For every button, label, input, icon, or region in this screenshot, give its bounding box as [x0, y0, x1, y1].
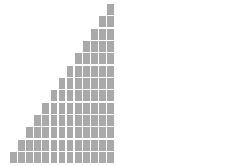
waffle-cell-filled: [91, 127, 98, 138]
waffle-cell-empty: [10, 16, 17, 27]
waffle-cell-empty: [26, 4, 33, 15]
waffle-cell-empty: [67, 16, 74, 27]
waffle-cell-empty: [34, 103, 41, 114]
waffle-cell-filled: [91, 152, 98, 163]
waffle-cell-filled: [99, 66, 106, 77]
waffle-cell-filled: [75, 140, 82, 151]
waffle-cell-filled: [83, 66, 90, 77]
waffle-cell-filled: [51, 152, 58, 163]
waffle-cell-filled: [75, 152, 82, 163]
waffle-cell-filled: [34, 152, 41, 163]
waffle-cell-filled: [91, 41, 98, 52]
waffle-cell-empty: [75, 29, 82, 40]
waffle-cell-empty: [18, 29, 25, 40]
waffle-cell-empty: [42, 4, 49, 15]
waffle-cell-empty: [26, 66, 33, 77]
waffle-cell-filled: [59, 152, 66, 163]
waffle-cell-empty: [83, 29, 90, 40]
waffle-cell-filled: [18, 152, 25, 163]
waffle-cell-filled: [83, 152, 90, 163]
waffle-cell-filled: [75, 66, 82, 77]
waffle-cell-filled: [75, 115, 82, 126]
waffle-cell-empty: [51, 41, 58, 52]
waffle-cell-empty: [18, 103, 25, 114]
waffle-cell-empty: [26, 16, 33, 27]
waffle-cell-empty: [34, 66, 41, 77]
waffle-cell-filled: [67, 115, 74, 126]
waffle-cell-empty: [83, 16, 90, 27]
waffle-cell-filled: [67, 127, 74, 138]
waffle-cell-filled: [107, 115, 114, 126]
waffle-cell-filled: [83, 90, 90, 101]
waffle-cell-filled: [99, 127, 106, 138]
waffle-cell-filled: [83, 127, 90, 138]
waffle-cell-filled: [59, 78, 66, 89]
waffle-cell-filled: [91, 66, 98, 77]
waffle-cell-filled: [59, 115, 66, 126]
waffle-cell-filled: [51, 103, 58, 114]
waffle-cell-empty: [18, 16, 25, 27]
waffle-cell-empty: [10, 127, 17, 138]
waffle-cell-filled: [67, 66, 74, 77]
waffle-cell-filled: [99, 152, 106, 163]
waffle-cell-empty: [59, 53, 66, 64]
waffle-cell-empty: [51, 66, 58, 77]
waffle-cell-filled: [83, 140, 90, 151]
waffle-cell-filled: [67, 90, 74, 101]
waffle-cell-empty: [26, 29, 33, 40]
waffle-cell-empty: [42, 90, 49, 101]
waffle-cell-filled: [83, 41, 90, 52]
waffle-cell-filled: [51, 140, 58, 151]
waffle-cell-empty: [18, 41, 25, 52]
waffle-cell-empty: [10, 103, 17, 114]
waffle-cell-filled: [83, 53, 90, 64]
waffle-grid-left: [10, 4, 114, 163]
waffle-cell-empty: [75, 4, 82, 15]
waffle-cell-empty: [42, 53, 49, 64]
waffle-cell-filled: [83, 78, 90, 89]
waffle-cell-filled: [59, 103, 66, 114]
waffle-cell-empty: [59, 29, 66, 40]
waffle-cell-empty: [42, 29, 49, 40]
waffle-cell-empty: [10, 4, 17, 15]
waffle-cell-filled: [99, 16, 106, 27]
waffle-cell-filled: [107, 29, 114, 40]
waffle-cell-empty: [26, 41, 33, 52]
waffle-cell-empty: [34, 90, 41, 101]
waffle-cell-filled: [99, 90, 106, 101]
waffle-cell-filled: [42, 140, 49, 151]
waffle-cell-empty: [26, 78, 33, 89]
waffle-cell-empty: [34, 78, 41, 89]
waffle-cell-filled: [91, 103, 98, 114]
waffle-cell-empty: [59, 4, 66, 15]
waffle-cell-filled: [91, 115, 98, 126]
waffle-cell-empty: [91, 4, 98, 15]
waffle-cell-filled: [91, 29, 98, 40]
waffle-cell-empty: [42, 78, 49, 89]
waffle-cell-filled: [107, 152, 114, 163]
waffle-cell-empty: [51, 4, 58, 15]
waffle-cell-filled: [107, 66, 114, 77]
waffle-cell-filled: [34, 127, 41, 138]
waffle-cell-empty: [18, 78, 25, 89]
waffle-cell-empty: [18, 4, 25, 15]
waffle-cell-empty: [34, 53, 41, 64]
waffle-cell-empty: [18, 66, 25, 77]
waffle-cell-filled: [26, 152, 33, 163]
waffle-cell-filled: [51, 115, 58, 126]
waffle-cell-filled: [107, 127, 114, 138]
waffle-cell-empty: [34, 4, 41, 15]
waffle-cell-empty: [10, 29, 17, 40]
waffle-cell-empty: [10, 78, 17, 89]
waffle-cell-filled: [107, 78, 114, 89]
waffle-cell-filled: [59, 127, 66, 138]
waffle-cell-filled: [34, 140, 41, 151]
waffle-cell-empty: [10, 90, 17, 101]
waffle-cell-filled: [91, 90, 98, 101]
waffle-cell-empty: [42, 66, 49, 77]
waffle-cell-filled: [107, 103, 114, 114]
waffle-cell-empty: [59, 66, 66, 77]
chart-panel-right: [120, 0, 239, 166]
waffle-cell-empty: [18, 90, 25, 101]
waffle-cell-empty: [59, 16, 66, 27]
